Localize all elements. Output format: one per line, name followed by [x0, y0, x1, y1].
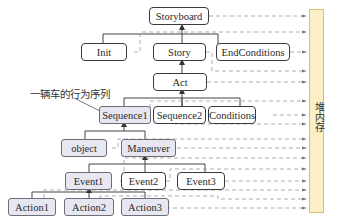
node-object: object	[61, 139, 107, 157]
node-conditions: Conditions	[208, 106, 256, 124]
node-sequence1: Sequence1	[99, 106, 151, 124]
node-event1: Event1	[65, 172, 112, 190]
node-storyboard: Storyboard	[149, 7, 209, 25]
diagram-canvas: Storyboard Init Story EndConditions Act …	[0, 0, 342, 224]
node-event3: Event3	[177, 172, 225, 190]
node-action1: Action1	[8, 198, 56, 216]
node-endconditions: EndConditions	[216, 43, 290, 61]
node-action3: Action3	[121, 198, 169, 216]
heap-memory-label: 堆内存	[309, 102, 324, 132]
node-sequence2: Sequence2	[153, 106, 206, 124]
node-maneuver: Maneuver	[121, 139, 176, 157]
node-action2: Action2	[64, 198, 114, 216]
annotation-vehicle-behavior-sequence: 一辆车的行为序列	[30, 86, 110, 101]
node-story: Story	[153, 43, 206, 61]
node-init: Init	[81, 43, 127, 61]
node-act: Act	[153, 73, 207, 91]
node-event2: Event2	[121, 172, 166, 190]
